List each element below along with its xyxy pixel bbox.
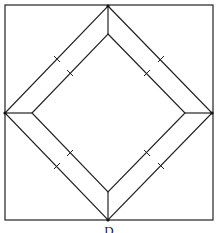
vertex-dots: [3, 4, 213, 221]
vertex-dot: [210, 111, 213, 114]
vertex-dot: [106, 218, 109, 221]
vertex-dot: [3, 111, 6, 114]
tick-mark: [144, 150, 150, 156]
figure-caption: D: [0, 224, 218, 233]
geometry-diagram: [0, 0, 218, 233]
vertex-dot: [106, 4, 109, 7]
outer-diamond: [5, 6, 212, 220]
tick-mark: [54, 163, 60, 169]
tick-mark: [144, 70, 150, 76]
outer-square: [5, 5, 213, 220]
